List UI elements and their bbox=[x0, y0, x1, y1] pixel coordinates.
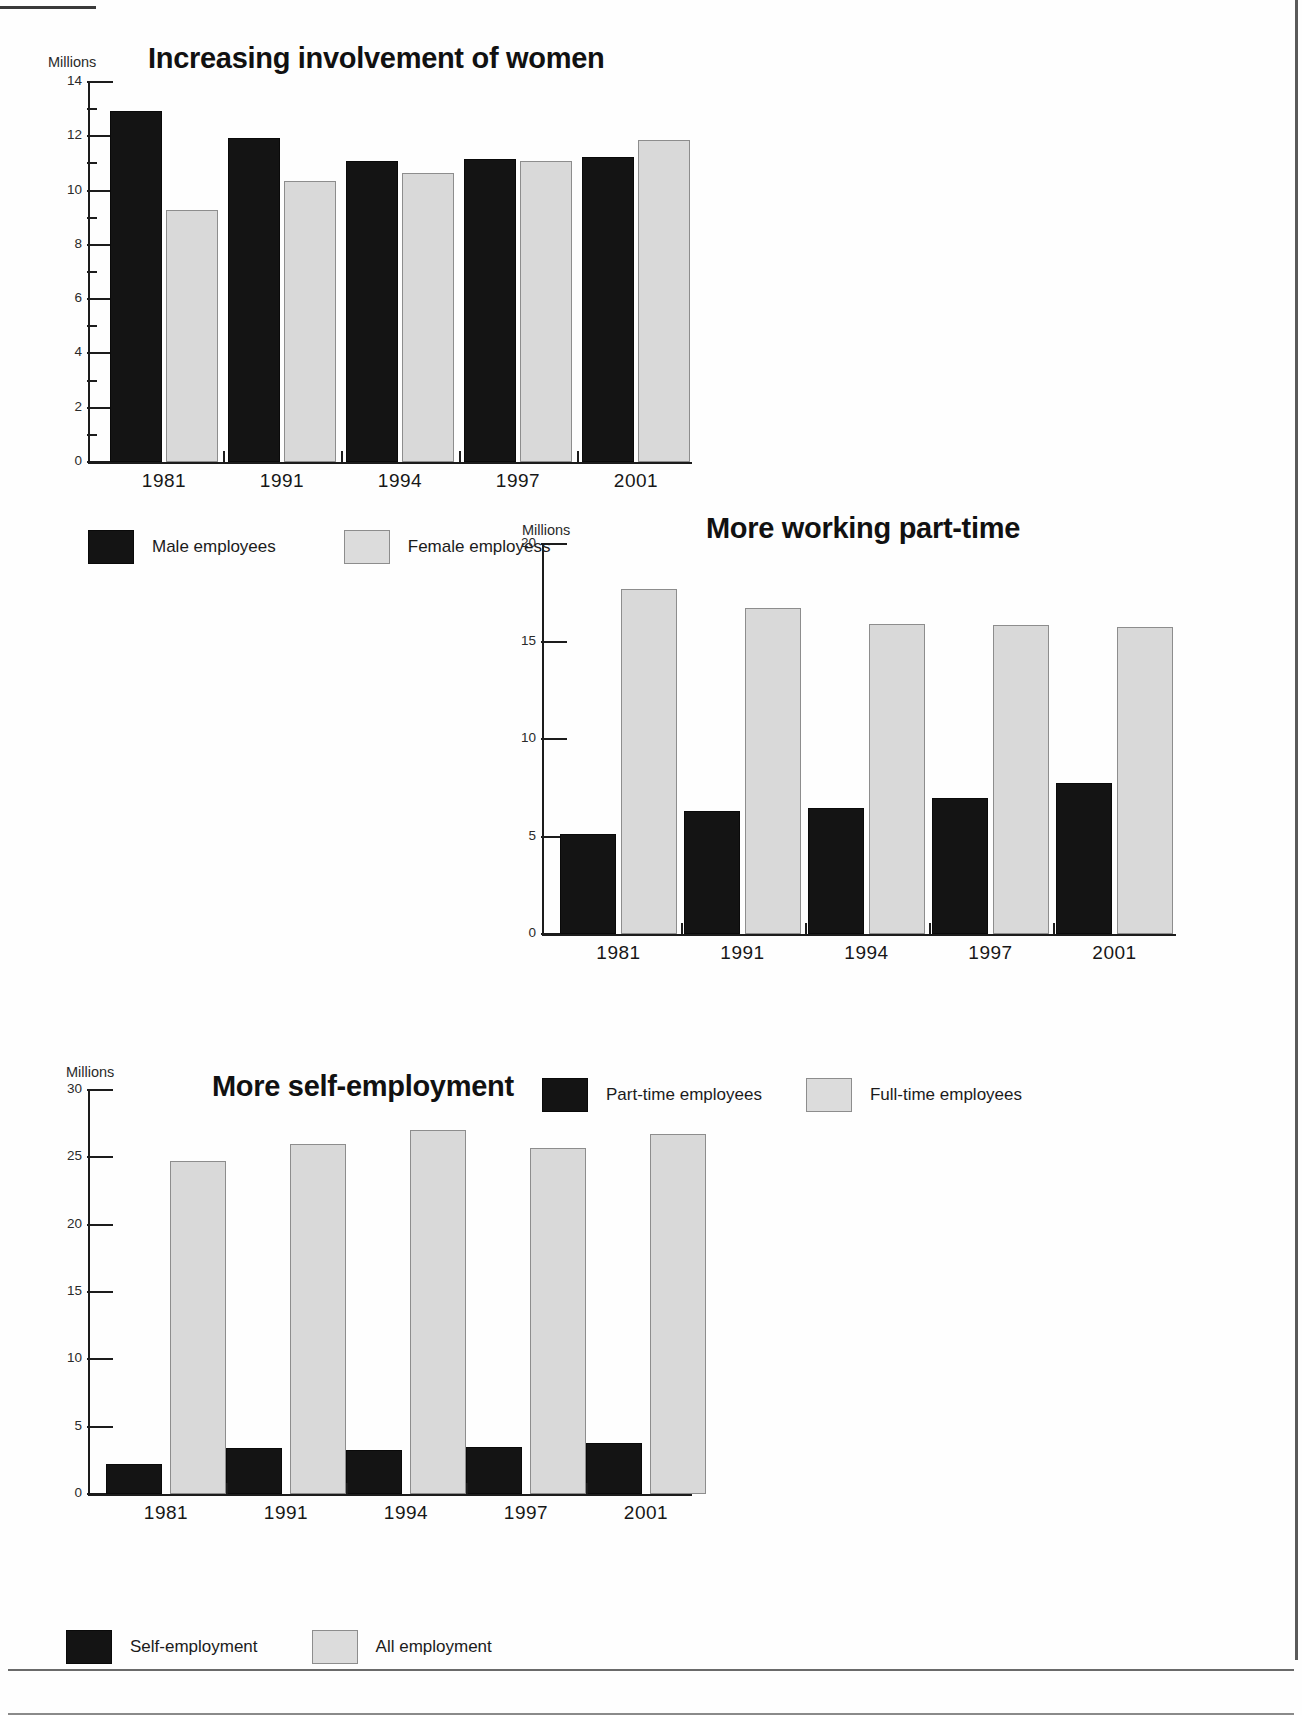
x-axis-tick bbox=[586, 1483, 588, 1494]
y-axis-tick-label: 30 bbox=[42, 1081, 82, 1096]
chart-increasing-involvement-of-women: Increasing involvement of women Millions… bbox=[0, 0, 720, 580]
y-axis-tick-label: 10 bbox=[42, 182, 82, 197]
x-axis-line bbox=[542, 934, 1176, 936]
bar bbox=[638, 140, 690, 462]
y-axis-tick-label: 15 bbox=[496, 633, 536, 648]
y-axis-tick-label: 14 bbox=[42, 73, 82, 88]
x-axis-tick bbox=[226, 1483, 228, 1494]
y-axis-tick-label: 5 bbox=[496, 828, 536, 843]
x-axis-line bbox=[88, 462, 692, 464]
y-axis-tick bbox=[541, 738, 567, 740]
y-axis-tick bbox=[87, 1426, 113, 1428]
x-axis-tick-label: 1997 bbox=[931, 942, 1051, 964]
y-axis-unit-label: Millions bbox=[48, 54, 96, 70]
bar bbox=[284, 181, 336, 462]
legend-swatch-light-icon bbox=[312, 1630, 358, 1664]
chart-title: More working part-time bbox=[706, 512, 1020, 545]
y-axis-tick-label: 0 bbox=[42, 453, 82, 468]
bar bbox=[170, 1161, 226, 1494]
bar bbox=[586, 1443, 642, 1494]
y-axis-tick-label: 2 bbox=[42, 399, 82, 414]
legend-item-0: Male employees bbox=[88, 530, 276, 564]
legend-label: Self-employment bbox=[130, 1637, 258, 1657]
y-axis-tick bbox=[87, 1358, 113, 1360]
bar bbox=[745, 608, 801, 934]
legend-item-0: Self-employment bbox=[66, 1630, 258, 1664]
bar bbox=[520, 161, 572, 462]
y-axis-tick-label: 6 bbox=[42, 290, 82, 305]
y-axis-minor-tick bbox=[87, 271, 97, 273]
bar bbox=[560, 834, 616, 934]
x-axis-tick-label: 2001 bbox=[1055, 942, 1175, 964]
page-canvas: Increasing involvement of women Millions… bbox=[0, 0, 1302, 1715]
bar bbox=[1056, 783, 1112, 934]
y-axis-tick-label: 25 bbox=[42, 1148, 82, 1163]
plot-area: 0510152019811991199419972001 bbox=[542, 544, 1176, 934]
bar bbox=[290, 1144, 346, 1494]
x-axis-line bbox=[88, 1494, 692, 1496]
legend-label: Male employees bbox=[152, 537, 276, 557]
y-axis-tick bbox=[87, 1156, 113, 1158]
bar bbox=[106, 1464, 162, 1494]
x-axis-tick bbox=[223, 451, 225, 462]
x-axis-tick-label: 1997 bbox=[466, 1502, 586, 1524]
y-axis-tick-label: 4 bbox=[42, 344, 82, 359]
y-axis-tick bbox=[87, 1224, 113, 1226]
y-axis-tick-label: 15 bbox=[42, 1283, 82, 1298]
x-axis-tick-label: 1991 bbox=[226, 1502, 346, 1524]
bar bbox=[346, 1450, 402, 1494]
bar bbox=[530, 1148, 586, 1494]
y-axis-tick-label: 10 bbox=[42, 1350, 82, 1365]
y-axis-tick bbox=[541, 641, 567, 643]
bar bbox=[464, 159, 516, 462]
y-axis-minor-tick bbox=[87, 108, 97, 110]
chart-legend: Self-employment All employment bbox=[66, 1630, 492, 1664]
y-axis-tick bbox=[541, 543, 567, 545]
bar bbox=[466, 1447, 522, 1494]
x-axis-tick-label: 1994 bbox=[340, 470, 460, 492]
y-axis-line bbox=[542, 544, 544, 936]
plot-area: 0246810121419811991199419972001 bbox=[88, 82, 692, 462]
bar bbox=[166, 210, 218, 462]
x-axis-tick-label: 1991 bbox=[683, 942, 803, 964]
legend-item-1: Full-time employees bbox=[806, 1078, 1022, 1112]
chart-more-working-part-time: More working part-time Millions 05101520… bbox=[500, 500, 1302, 1130]
bar bbox=[1117, 627, 1173, 934]
bar bbox=[993, 625, 1049, 934]
bar bbox=[808, 808, 864, 934]
bar bbox=[402, 173, 454, 462]
legend-label: Full-time employees bbox=[870, 1085, 1022, 1105]
legend-swatch-dark-icon bbox=[88, 530, 134, 564]
y-axis-tick-label: 12 bbox=[42, 127, 82, 142]
x-axis-tick-label: 1981 bbox=[104, 470, 224, 492]
y-axis-minor-tick bbox=[87, 217, 97, 219]
legend-label: All employment bbox=[376, 1637, 492, 1657]
y-axis-tick-label: 20 bbox=[42, 1216, 82, 1231]
x-axis-tick-label: 2001 bbox=[586, 1502, 706, 1524]
bar bbox=[110, 111, 162, 463]
legend-swatch-light-icon bbox=[344, 530, 390, 564]
y-axis-tick bbox=[87, 1089, 113, 1091]
y-axis-tick-label: 20 bbox=[496, 535, 536, 550]
legend-swatch-dark-icon bbox=[66, 1630, 112, 1664]
bar bbox=[410, 1130, 466, 1494]
y-axis-tick bbox=[87, 1291, 113, 1293]
bar bbox=[226, 1448, 282, 1494]
y-axis-minor-tick bbox=[87, 434, 97, 436]
y-axis-tick-label: 8 bbox=[42, 236, 82, 251]
x-axis-tick bbox=[459, 451, 461, 462]
x-axis-tick bbox=[346, 1483, 348, 1494]
y-axis-tick-label: 0 bbox=[42, 1485, 82, 1500]
x-axis-tick-label: 1997 bbox=[458, 470, 578, 492]
x-axis-tick bbox=[805, 923, 807, 934]
bar bbox=[932, 798, 988, 934]
bar bbox=[869, 624, 925, 934]
plot-area: 05101520253019811991199419972001 bbox=[88, 1090, 692, 1494]
x-axis-tick-label: 2001 bbox=[576, 470, 696, 492]
x-axis-tick bbox=[341, 451, 343, 462]
y-axis-tick bbox=[87, 81, 113, 83]
bar bbox=[228, 138, 280, 462]
x-axis-tick-label: 1994 bbox=[346, 1502, 466, 1524]
x-axis-tick-label: 1994 bbox=[807, 942, 927, 964]
legend-swatch-light-icon bbox=[806, 1078, 852, 1112]
